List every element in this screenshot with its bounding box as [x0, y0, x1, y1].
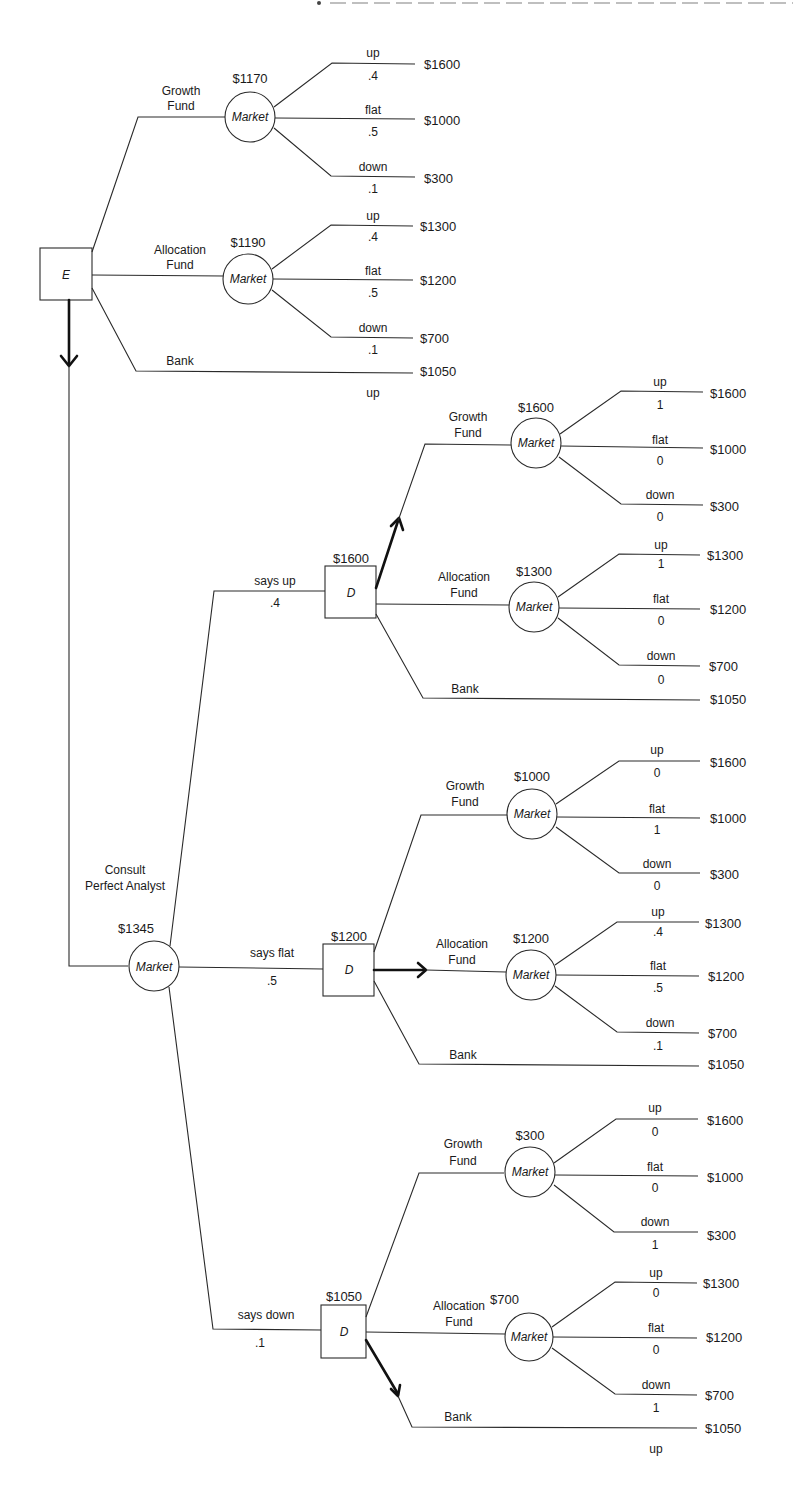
- decision-node-says-up: D $1600: [325, 551, 376, 618]
- outcome-label: flat: [647, 1160, 664, 1174]
- signal-label: says flat: [250, 946, 295, 960]
- branch-label-growth-2: Fund: [454, 426, 481, 440]
- outcome-label: flat: [365, 264, 382, 278]
- outcome-prob: 0: [653, 1286, 660, 1300]
- chance-node-label: Market: [513, 968, 550, 982]
- branch-label-growth-2: Fund: [167, 99, 194, 113]
- chance-node: Market $1300: [509, 564, 559, 632]
- branch-label-bank: Bank: [451, 682, 479, 696]
- root-decision-label: E: [62, 268, 71, 282]
- branch-label-growth-2: Fund: [451, 795, 478, 809]
- outcome-label: up: [366, 46, 380, 60]
- outcome-label: down: [359, 160, 388, 174]
- outcome-prob: 1: [652, 1238, 659, 1252]
- outcome-label: flat: [649, 802, 666, 816]
- ev-label: $300: [516, 1128, 545, 1143]
- branch-label-allocation-2: Fund: [445, 1315, 472, 1329]
- payoff: $1600: [710, 755, 746, 770]
- payoff: $700: [705, 1388, 734, 1403]
- outcome-prob: .4: [653, 925, 663, 939]
- branch-label-growth: Growth: [446, 779, 485, 793]
- branch-says-up: [170, 591, 325, 946]
- outcome-prob: .5: [368, 286, 378, 300]
- outcome-prob: .4: [368, 69, 378, 83]
- outcome-prob: 1: [657, 398, 664, 412]
- payoff: $300: [710, 499, 739, 514]
- payoff: $1000: [707, 1170, 743, 1185]
- branch-growth-fund: [92, 117, 226, 252]
- payoff: $1300: [705, 916, 741, 931]
- outcome-prob: .1: [368, 343, 378, 357]
- outcome-prob: 0: [654, 879, 661, 893]
- outcome-label: up: [651, 905, 665, 919]
- outcome-prob: 1: [654, 823, 661, 837]
- branch-label-allocation: Allocation: [438, 570, 490, 584]
- header-fragment: [317, 1, 793, 5]
- payoff: $1000: [424, 113, 460, 128]
- payoff: $1200: [706, 1330, 742, 1345]
- payoff: $300: [710, 867, 739, 882]
- ev-label: $1170: [232, 71, 267, 86]
- payoff: $1050: [705, 1421, 741, 1436]
- payoff: $700: [420, 331, 449, 346]
- branch-says-flat: [179, 967, 323, 969]
- outcome-label: flat: [648, 1321, 665, 1335]
- chance-node: Market $1200: [506, 931, 556, 1000]
- payoff: $1200: [420, 273, 456, 288]
- decision-label: D: [345, 963, 354, 977]
- outcome-prob: 0: [658, 673, 665, 687]
- signal-label: says up: [254, 574, 296, 588]
- outcome-label: flat: [652, 433, 669, 447]
- chance-node-label: Market: [516, 600, 553, 614]
- payoff: $1300: [703, 1276, 739, 1291]
- outcome-label: up: [649, 1266, 663, 1280]
- branch-label-growth: Growth: [162, 84, 201, 98]
- outcome-label: up: [653, 375, 667, 389]
- signal-prob: .5: [267, 974, 277, 988]
- outcome-label: down: [647, 649, 676, 663]
- ev-label: $1050: [326, 1289, 362, 1304]
- payoff: $1600: [707, 1113, 743, 1128]
- chance-node-label: Market: [512, 1165, 549, 1179]
- branch-label-allocation-2: Fund: [450, 586, 477, 600]
- outcome-label: up: [366, 209, 380, 223]
- branch-label-allocation: Allocation: [433, 1299, 485, 1313]
- payoff: $1300: [420, 219, 456, 234]
- branch-label-growth-2: Fund: [449, 1154, 476, 1168]
- outcome-prob: 1: [658, 557, 665, 571]
- chance-node-label: Market: [232, 110, 269, 124]
- branch-label-consult-2: Perfect Analyst: [85, 879, 166, 893]
- outcome-prob: 0: [653, 1343, 660, 1357]
- branch-label-consult: Consult: [105, 863, 146, 877]
- payoff: $1200: [708, 969, 744, 984]
- ev-label: $1300: [516, 564, 552, 579]
- ev-label: $1600: [333, 551, 369, 566]
- branch-label-growth: Growth: [444, 1137, 483, 1151]
- outcome-label: up: [650, 743, 664, 757]
- branch-label-allocation: Allocation: [154, 243, 206, 257]
- branch-label-allocation-2: Fund: [448, 953, 475, 967]
- ev-label: $1345: [118, 921, 154, 936]
- branch-label-allocation: Allocation: [436, 937, 488, 951]
- outcome-prob: .1: [653, 1039, 663, 1053]
- branch-allocation-fund: [92, 275, 224, 276]
- chance-node-analyst: Market $1345: [118, 921, 179, 991]
- signal-prob: .4: [270, 596, 280, 610]
- root-decision-node: E: [40, 248, 92, 300]
- chance-node-label: Market: [136, 960, 173, 974]
- decision-node-says-flat: D $1200: [323, 929, 374, 996]
- branch-label-bank: Bank: [444, 1410, 472, 1424]
- outcome-prob: .1: [368, 182, 378, 196]
- ev-label: $1200: [331, 929, 367, 944]
- outcome-prob: 0: [654, 766, 661, 780]
- outcome-label: down: [642, 1378, 671, 1392]
- outcome-label: down: [643, 857, 672, 871]
- payoff: $700: [708, 1026, 737, 1041]
- payoff: $1200: [710, 602, 746, 617]
- payoff: $300: [707, 1228, 736, 1243]
- branch-label-growth: Growth: [449, 410, 488, 424]
- outcome-label: flat: [365, 103, 382, 117]
- decision-tree-diagram: E Growth Fund Market $1170 up .4 $1600 f…: [0, 0, 793, 1493]
- chance-node: Market $1000: [507, 769, 557, 839]
- outcome-label: up: [654, 538, 668, 552]
